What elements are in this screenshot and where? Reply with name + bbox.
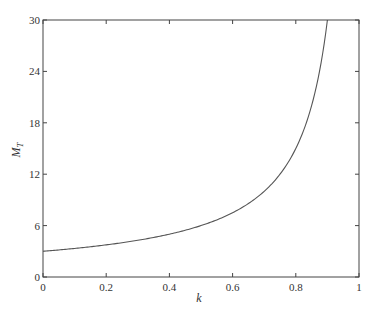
series-line [43,20,327,251]
x-tick-label: 1 [356,281,362,293]
y-tick-label: 12 [29,168,40,180]
plot-frame [43,20,359,277]
curve-layer [43,20,327,251]
x-tick-label: 0.6 [226,281,240,293]
y-tick-label: 30 [29,14,41,26]
svg-text:MT: MT [9,142,25,159]
x-tick-label: 0.2 [99,281,113,293]
y-axis-label: MT [9,142,25,159]
x-axis: 00.20.40.60.81 [40,20,362,293]
y-tick-label: 6 [35,220,41,232]
x-tick-label: 0.8 [289,281,303,293]
x-tick-label: 0.4 [163,281,177,293]
x-tick-label: 0 [40,281,46,293]
y-axis: 0612182430 [29,14,359,283]
y-tick-label: 18 [29,117,41,129]
chart: 00.20.40.60.81 0612182430 k MT [0,0,375,316]
y-tick-label: 24 [29,65,41,77]
x-axis-label: k [196,291,202,305]
y-tick-label: 0 [35,271,41,283]
